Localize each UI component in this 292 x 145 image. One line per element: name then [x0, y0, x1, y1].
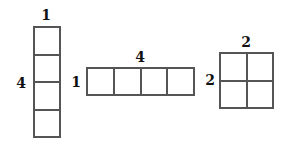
vertical-strip-top-label: 1: [41, 8, 51, 22]
square-grid-side-label: 2: [205, 73, 215, 87]
grid-cell: [34, 82, 60, 110]
horizontal-strip-grid: [86, 67, 195, 96]
grid-cell: [247, 81, 274, 109]
horizontal-strip-top-label: 4: [135, 50, 145, 64]
grid-cell: [114, 68, 141, 95]
grid-cell: [87, 68, 114, 95]
grid-cell: [141, 68, 168, 95]
grid-cell: [167, 68, 194, 95]
grid-cell: [247, 53, 274, 81]
grid-cell: [34, 27, 60, 55]
vertical-strip-side-label: 4: [16, 76, 26, 90]
grid-cell: [34, 110, 60, 138]
horizontal-strip-side-label: 1: [71, 75, 81, 89]
square-grid-top-label: 2: [241, 35, 251, 49]
grid-cell: [220, 53, 247, 81]
vertical-strip-grid: [33, 26, 61, 138]
grid-cell: [34, 55, 60, 83]
grid-cell: [220, 81, 247, 109]
square-grid: [219, 52, 274, 109]
